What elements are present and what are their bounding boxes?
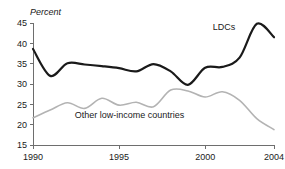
y-tick-label: 40 [17, 39, 27, 49]
y-axis-title-group: Percent [30, 7, 62, 17]
y-tick-label: 35 [17, 59, 27, 69]
y-axis-title: Percent [30, 7, 62, 17]
chart-container: Percent 15202530354045 1990199520002004 … [0, 0, 285, 169]
y-tick-label: 25 [17, 100, 27, 110]
x-tick-label: 2004 [264, 152, 284, 162]
line-chart: Percent 15202530354045 1990199520002004 … [0, 0, 285, 169]
series-line-ldcs [33, 23, 274, 85]
x-axis-ticks: 1990199520002004 [23, 145, 284, 162]
series-label-other-low-income-countries: Other low-income countries [75, 110, 185, 120]
x-tick-label: 1990 [23, 152, 43, 162]
y-tick-label: 45 [17, 18, 27, 28]
x-tick-label: 2000 [195, 152, 215, 162]
y-tick-label: 15 [17, 140, 27, 150]
series-label-ldcs: LDCs [213, 22, 236, 32]
x-tick-label: 1995 [109, 152, 129, 162]
y-tick-label: 30 [17, 79, 27, 89]
y-tick-label: 20 [17, 120, 27, 130]
y-axis-ticks: 15202530354045 [17, 18, 33, 150]
